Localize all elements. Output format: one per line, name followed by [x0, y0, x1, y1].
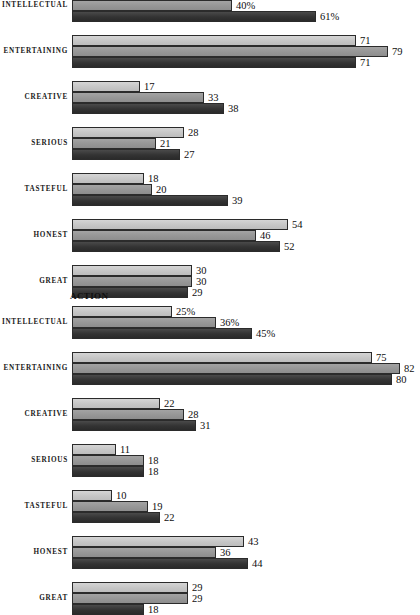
bar-value-label: 80: [396, 374, 407, 385]
bar-row: 29: [72, 582, 420, 593]
bar-dark: [72, 241, 280, 252]
bar-row: 71: [72, 57, 420, 68]
bar-value-label: 20: [156, 184, 167, 195]
bar-light: [72, 536, 244, 547]
bar-row: 79: [72, 46, 420, 57]
bar-group: INTELLECTUAL25%36%45%: [0, 306, 420, 339]
category-label: ENTERTAINING: [0, 364, 68, 372]
bar-value-label: 21: [160, 138, 171, 149]
bar-dark: [72, 11, 316, 22]
bar-group: ENTERTAINING758280: [0, 352, 420, 385]
bar-value-label: 40%: [236, 0, 255, 11]
bar-value-label: 39: [232, 195, 243, 206]
bar-medium: [72, 230, 256, 241]
bar-row: 18: [72, 455, 420, 466]
bar-value-label: 18: [148, 466, 159, 477]
bar-group: SERIOUS111818: [0, 444, 420, 477]
bar-light: [72, 219, 288, 230]
bar-dark: [72, 558, 248, 569]
bar-value-label: 33: [208, 92, 219, 103]
category-label: HONEST: [0, 548, 68, 556]
category-label: CREATIVE: [0, 93, 68, 101]
bar-row: 22: [72, 398, 420, 409]
bar-value-label: 25%: [176, 306, 195, 317]
bar-row: 39: [72, 195, 420, 206]
bar-light: [72, 306, 172, 317]
bar-row: 46: [72, 230, 420, 241]
bar-row: 22: [72, 512, 420, 523]
bar-row: 21: [72, 138, 420, 149]
bar-group: INTELLECTUAL40%61%: [0, 0, 420, 22]
bar-light: [72, 127, 184, 138]
bar-row: 52: [72, 241, 420, 252]
bar-value-label: 38: [228, 103, 239, 114]
bar-light: [72, 490, 112, 501]
bar-group: HONEST433644: [0, 536, 420, 569]
bar-row: 27: [72, 149, 420, 160]
bar-value-label: 28: [188, 409, 199, 420]
bar-light: [72, 352, 372, 363]
bar-value-label: 75: [376, 352, 387, 363]
bar-row: 18: [72, 173, 420, 184]
bar-value-label: 18: [148, 604, 159, 615]
category-label: HONEST: [0, 231, 68, 239]
category-label: INTELLECTUAL: [0, 1, 68, 9]
bar-value-label: 82: [404, 363, 415, 374]
bar-row: 18: [72, 604, 420, 615]
bar-row: 75: [72, 352, 420, 363]
category-label: CREATIVE: [0, 410, 68, 418]
bar-medium: [72, 547, 216, 558]
bar-value-label: 17: [144, 81, 155, 92]
bar-dark: [72, 420, 196, 431]
bar-light: [72, 173, 144, 184]
bar-group: CREATIVE173338: [0, 81, 420, 114]
bar-row: 20: [72, 184, 420, 195]
bar-value-label: 36%: [220, 317, 239, 328]
bar-row: 19: [72, 501, 420, 512]
bar-value-label: 28: [188, 127, 199, 138]
bar-row: 18: [72, 466, 420, 477]
bar-dark: [72, 374, 392, 385]
bar-row: 10: [72, 490, 420, 501]
bar-value-label: 52: [284, 241, 295, 252]
bar-value-label: 27: [184, 149, 195, 160]
bar-light: [72, 444, 116, 455]
bar-dark: [72, 466, 144, 477]
bar-row: 29: [72, 593, 420, 604]
bar-value-label: 29: [192, 593, 203, 604]
category-label: TASTEFUL: [0, 185, 68, 193]
bar-row: 43: [72, 536, 420, 547]
bar-group: HONEST544652: [0, 219, 420, 252]
bar-light: [72, 35, 356, 46]
bar-row: 61%: [72, 11, 420, 22]
bar-value-label: 18: [148, 455, 159, 466]
bar-medium: [72, 0, 232, 11]
category-label: GREAT: [0, 594, 68, 602]
bar-row: 11: [72, 444, 420, 455]
bar-group: CREATIVE222831: [0, 398, 420, 431]
bar-row: 33: [72, 92, 420, 103]
bar-dark: [72, 103, 224, 114]
bar-value-label: 31: [200, 420, 211, 431]
bar-light: [72, 582, 188, 593]
bar-value-label: 29: [192, 582, 203, 593]
bar-row: 82: [72, 363, 420, 374]
bar-dark: [72, 149, 180, 160]
bar-dark: [72, 57, 356, 68]
bar-row: 44: [72, 558, 420, 569]
bar-medium: [72, 46, 388, 57]
bar-row: 28: [72, 127, 420, 138]
bar-value-label: 44: [252, 558, 263, 569]
bar-group: GREAT292918: [0, 582, 420, 615]
bar-medium: [72, 363, 400, 374]
bar-value-label: 11: [120, 444, 130, 455]
bar-group: TASTEFUL101922: [0, 490, 420, 523]
bar-dark: [72, 195, 228, 206]
bar-row: 31: [72, 420, 420, 431]
bar-row: 40%: [72, 0, 420, 11]
bar-value-label: 22: [164, 398, 175, 409]
bar-row: 25%: [72, 306, 420, 317]
bar-row: 36%: [72, 317, 420, 328]
bar-group: ENTERTAINING717971: [0, 35, 420, 68]
